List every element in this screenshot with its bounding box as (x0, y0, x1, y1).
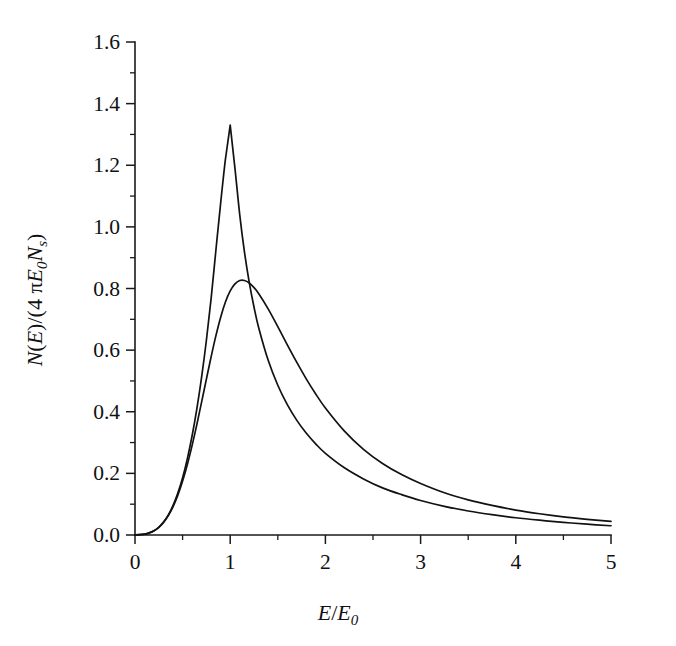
x-tick-label: 0 (130, 550, 141, 574)
curve-sharp-peak-curve (135, 125, 611, 535)
y-tick-label: 1.0 (93, 215, 120, 239)
x-tick-label: 5 (606, 550, 617, 574)
x-axis-title: E/E0 (317, 600, 359, 628)
y-tick-label: 0.0 (93, 523, 120, 547)
x-tick-label: 1 (225, 550, 236, 574)
y-tick-label: 0.8 (93, 277, 120, 301)
svg-text:E/E0: E/E0 (317, 600, 359, 628)
tick-labels-group: 0.00.20.40.60.81.01.21.41.6012345 (93, 30, 616, 574)
curves-group (135, 125, 611, 535)
curve-broad-peak-curve (135, 280, 611, 535)
figure-page: 0.00.20.40.60.81.01.21.41.6012345 E/E0 N… (0, 0, 676, 646)
y-tick-label: 0.2 (93, 461, 120, 485)
axes-group (126, 42, 611, 544)
spectral-distribution-chart: 0.00.20.40.60.81.01.21.41.6012345 E/E0 N… (0, 0, 676, 646)
y-tick-label: 1.2 (93, 153, 120, 177)
y-tick-label: 1.6 (93, 30, 120, 54)
svg-text:N(E)/(4 πE0Ns): N(E)/(4 πE0Ns) (22, 234, 50, 368)
y-tick-label: 0.6 (93, 338, 120, 362)
y-axis-title: N(E)/(4 πE0Ns) (22, 234, 50, 368)
y-tick-label: 0.4 (93, 400, 120, 424)
x-tick-label: 4 (510, 550, 521, 574)
y-tick-label: 1.4 (93, 92, 120, 116)
x-tick-label: 3 (415, 550, 426, 574)
x-tick-label: 2 (320, 550, 331, 574)
